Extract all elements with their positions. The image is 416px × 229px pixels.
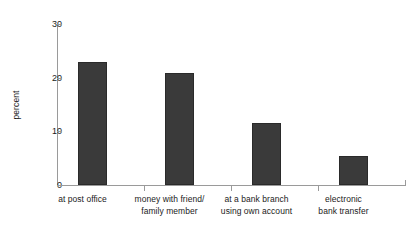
bars-layer [57, 24, 405, 185]
bar-at-a-bank-branch-using-own-account [252, 123, 281, 185]
x-tick-mark-2 [231, 186, 232, 191]
bar-chart: 30 20 10 0 percent at post office money … [0, 0, 416, 229]
x-label-line-1: electronic [297, 194, 390, 206]
x-label-line-1: at a bank branch [210, 194, 303, 206]
x-tick-mark-1 [144, 186, 145, 191]
y-axis-title: percent [11, 75, 21, 135]
x-tick-mark-3 [318, 186, 319, 191]
x-label-at-post-office: at post office [36, 194, 129, 206]
x-label-money-with-friend-family-member: money with friend/ family member [123, 194, 216, 217]
x-label-electronic-bank-transfer: electronic bank transfer [297, 194, 390, 217]
x-label-line-2: bank transfer [297, 206, 390, 218]
x-label-at-a-bank-branch-using-own-account: at a bank branch using own account [210, 194, 303, 217]
x-label-line-2: using own account [210, 206, 303, 218]
x-axis-endcap [405, 180, 406, 186]
x-label-line-1: money with friend/ [123, 194, 216, 206]
x-label-line-2: family member [123, 206, 216, 218]
bar-at-post-office [78, 62, 107, 185]
bar-electronic-bank-transfer [339, 156, 368, 185]
bar-money-with-friend-family-member [165, 73, 194, 185]
x-label-line-1: at post office [36, 194, 129, 206]
